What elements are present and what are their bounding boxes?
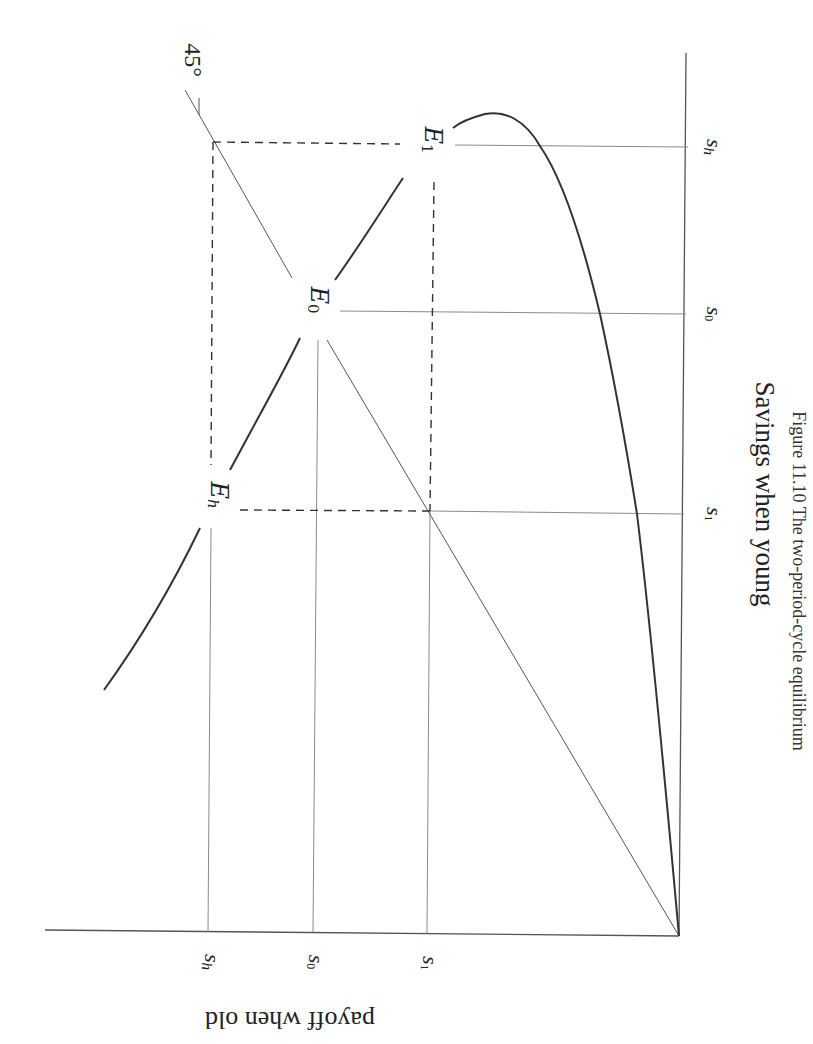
gridline-y-sh: [208, 528, 211, 932]
svg-text:s0: s0: [304, 955, 329, 970]
dashed-s1-vertical: [430, 182, 434, 511]
point-label-eh: Eh: [204, 480, 234, 508]
y-tick-sh: sh: [199, 954, 225, 970]
x-tick-s1: s1: [702, 507, 727, 521]
figure-caption: Figure 11.10 The two-period-cycle equili…: [789, 411, 809, 750]
y-axis: [45, 930, 679, 936]
second-iterate-curve-bottom: [104, 528, 200, 690]
svg-text:s1: s1: [418, 956, 443, 970]
x-axis-title: Savings when young: [750, 382, 780, 607]
dashed-sh-vertical: [211, 142, 213, 465]
svg-text:E0: E0: [304, 285, 334, 313]
angle-label: 45°: [179, 43, 205, 77]
svg-text:payoff when old: payoff when old: [205, 1006, 375, 1035]
dashed-sh-horizontal: [213, 142, 400, 144]
svg-text:45°: 45°: [179, 43, 205, 77]
gridline-x-sh: [455, 145, 688, 147]
gridline-x-s1: [430, 511, 684, 514]
second-iterate-curve-top: [335, 178, 403, 280]
svg-text:s1: s1: [702, 507, 727, 521]
dashed-s1-horizontal: [240, 510, 430, 511]
y-tick-s0: s0: [304, 955, 329, 970]
line-45-degree: [185, 90, 292, 278]
x-tick-sh: sh: [701, 139, 727, 155]
gridline-x-s0: [340, 311, 686, 314]
point-label-e1: E1: [418, 125, 448, 153]
svg-text:s0: s0: [702, 307, 727, 322]
svg-text:sh: sh: [199, 954, 225, 970]
x-tick-s0: s0: [702, 307, 727, 322]
x-axis: [679, 53, 686, 936]
svg-text:Savings when young: Savings when young: [750, 382, 780, 607]
svg-text:Figure 11.10 The two-period-c: Figure 11.10 The two-period-cycle equili…: [789, 411, 809, 750]
point-label-e0: E0: [304, 285, 334, 313]
svg-text:E1: E1: [418, 125, 448, 153]
chart-figure: 45° E1 E0 Eh sh s0 s1 sh s0 s1 Savings w…: [0, 0, 813, 1044]
y-axis-title: payoff when old: [205, 1006, 375, 1035]
line-45-degree-lower: [327, 340, 679, 936]
svg-text:sh: sh: [701, 139, 727, 155]
gridline-y-s0: [313, 340, 318, 932]
second-iterate-curve-mid: [230, 338, 300, 470]
gridline-y-s1: [427, 511, 430, 933]
payoff-curve: [453, 113, 679, 936]
svg-text:Eh: Eh: [204, 480, 234, 508]
y-tick-s1: s1: [418, 956, 443, 970]
